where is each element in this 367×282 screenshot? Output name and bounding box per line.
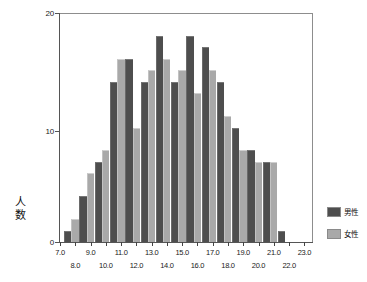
x-tick-mark [274, 242, 275, 246]
x-axis-line [59, 242, 313, 243]
bar-female [163, 59, 170, 242]
bar-male [278, 231, 285, 242]
x-tick-mark [197, 242, 198, 246]
bar-male [263, 162, 270, 242]
x-tick-mark [259, 242, 260, 246]
x-tick-label: 17.0 [200, 248, 226, 257]
legend-item-male: 男性 [327, 206, 367, 217]
bar-male [232, 128, 239, 243]
bar-female [270, 162, 277, 242]
bars-layer [60, 13, 312, 242]
y-axis-title: 人数 [12, 196, 28, 222]
legend-item-female: 女性 [327, 228, 367, 239]
bar-male [217, 82, 224, 242]
x-tick-label: 14.0 [154, 261, 180, 270]
x-tick-mark [182, 242, 183, 246]
bar-male [95, 162, 102, 242]
y-tick-label-20: 20 [28, 9, 54, 18]
legend-swatch-male-icon [327, 207, 341, 217]
x-tick-label: 12.0 [123, 261, 149, 270]
bar-female [224, 116, 231, 242]
x-tick-mark [75, 242, 76, 246]
x-tick-label: 20.0 [246, 261, 272, 270]
bar-female [148, 70, 155, 242]
bar-male [141, 82, 148, 242]
legend-swatch-female-icon [327, 229, 341, 239]
x-tick-label: 18.0 [215, 261, 241, 270]
x-tick-label: 10.0 [93, 261, 119, 270]
bar-female [194, 93, 201, 242]
x-tick-mark [106, 242, 107, 246]
y-tick-mark [55, 13, 59, 14]
bar-female [209, 70, 216, 242]
y-tick-label-0: 0 [28, 238, 54, 247]
x-tick-label: 22.0 [276, 261, 302, 270]
y-tick-mark [55, 242, 59, 243]
bar-female [87, 173, 94, 242]
x-tick-label: 7.0 [47, 248, 73, 257]
bar-female [239, 150, 246, 242]
legend-label-male: 男性 [344, 206, 358, 217]
bar-male [79, 196, 86, 242]
x-tick-mark [243, 242, 244, 246]
bar-female [178, 70, 185, 242]
x-tick-mark [304, 242, 305, 246]
x-tick-label: 19.0 [230, 248, 256, 257]
x-tick-label: 13.0 [139, 248, 165, 257]
bar-male [171, 82, 178, 242]
x-tick-mark [213, 242, 214, 246]
bar-female [102, 150, 109, 242]
bar-male [202, 47, 209, 242]
y-tick-label-10: 10 [28, 127, 54, 136]
histogram-chart: 0 10 20 人数 7.09.011.013.015.017.019.021.… [0, 0, 367, 282]
x-tick-mark [60, 242, 61, 246]
bar-male [186, 36, 193, 242]
x-tick-label: 16.0 [184, 261, 210, 270]
x-tick-label: 9.0 [78, 248, 104, 257]
x-tick-label: 8.0 [62, 261, 88, 270]
x-tick-mark [167, 242, 168, 246]
x-tick-mark [152, 242, 153, 246]
x-tick-label: 23.0 [291, 248, 317, 257]
bar-female [71, 219, 78, 242]
bar-female [117, 59, 124, 242]
bar-male [64, 231, 71, 242]
x-tick-label: 15.0 [169, 248, 195, 257]
bar-male [125, 59, 132, 242]
bar-female [133, 128, 140, 243]
x-tick-mark [121, 242, 122, 246]
x-tick-label: 11.0 [108, 248, 134, 257]
x-tick-mark [289, 242, 290, 246]
bar-male [156, 36, 163, 242]
bar-male [247, 150, 254, 242]
x-tick-mark [91, 242, 92, 246]
y-tick-mark [55, 131, 59, 132]
bar-female [255, 162, 262, 242]
chart-legend: 男性 女性 [327, 206, 367, 250]
legend-label-female: 女性 [344, 228, 358, 239]
x-tick-label: 21.0 [261, 248, 287, 257]
x-tick-mark [136, 242, 137, 246]
x-tick-mark [228, 242, 229, 246]
bar-male [110, 82, 117, 242]
